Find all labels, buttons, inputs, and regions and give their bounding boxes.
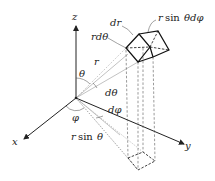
r-sin-theta-d-phi-leader: [148, 20, 156, 32]
rd-theta-leader: [108, 38, 126, 48]
y-axis-label: y: [184, 140, 191, 151]
svg-text:r: r: [71, 131, 77, 142]
drop-line-4: [153, 57, 155, 161]
volume-element-hidden-edge-3: [150, 47, 169, 50]
volume-element-top: [138, 31, 169, 62]
volume-element-hidden-edge-1: [126, 47, 150, 48]
dr-leader: [122, 26, 133, 35]
volume-element-front-face: [126, 34, 150, 62]
r-sin-theta-label: r sin θ: [71, 131, 103, 142]
d-phi-label: dφ: [108, 104, 121, 115]
z-axis-label: z: [71, 11, 78, 22]
drop-line-1: [126, 50, 128, 158]
footprint-projection: [128, 152, 155, 170]
d-theta-label: dθ: [105, 87, 117, 98]
volume-element-edge: [150, 47, 153, 57]
x-axis: [24, 98, 76, 139]
phi-label: φ: [72, 112, 79, 123]
svg-text:r: r: [158, 12, 164, 23]
svg-text:θ: θ: [97, 131, 103, 142]
phi-arc: [66, 106, 84, 111]
volume-element-hidden-edge-2: [150, 31, 158, 47]
svg-text:sin: sin: [78, 131, 93, 142]
dr-label: dr: [110, 17, 122, 28]
spherical-volume-element-diagram: z y x θ φ r dθ dφ dr rdθ r sin θ r sin θ…: [0, 0, 215, 181]
r-label: r: [94, 56, 100, 67]
theta-label: θ: [79, 68, 85, 79]
svg-text:θdφ: θdφ: [184, 12, 203, 23]
svg-text:sin: sin: [165, 12, 180, 23]
origin-point: [75, 97, 78, 100]
r-sin-theta-d-phi-label: r sin θdφ: [158, 12, 203, 23]
r-d-theta-label: rdθ: [91, 31, 108, 42]
x-axis-label: x: [12, 136, 18, 147]
